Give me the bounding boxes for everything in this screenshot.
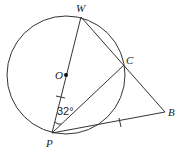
geometry-diagram: W C O B P 32° [0,0,182,152]
label-w: W [76,2,86,14]
tick-mark-pb [119,118,121,127]
center-point-o [64,73,68,77]
segment-wb [81,17,165,112]
label-p: P [45,137,53,149]
angle-arc-p [55,122,61,124]
label-c: C [126,54,134,66]
label-b: B [168,106,175,118]
angle-label: 32° [57,105,74,117]
label-o: O [55,69,63,81]
